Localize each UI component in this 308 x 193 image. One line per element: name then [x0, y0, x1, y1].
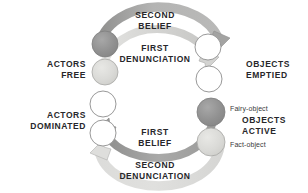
label-actors-dominated: ACTORS DOMINATED: [2, 110, 86, 132]
right-node-2: [196, 66, 222, 92]
label-objects-active: OBJECTS ACTIVE: [242, 115, 298, 137]
label-first-denunciation: FIRST DENUNCIATION: [99, 43, 211, 65]
label-objects-emptied: OBJECTS EMPTIED: [246, 59, 306, 81]
right-node-4: [197, 128, 225, 156]
left-node-3: [90, 91, 116, 117]
label-actors-free: ACTORS FREE: [6, 59, 86, 81]
cycle-diagram: ACTORS FREE ACTORS DOMINATED OBJECTS EMP…: [0, 0, 308, 193]
label-first-belief: FIRST BELIEF: [109, 127, 201, 149]
label-second-belief: SECOND BELIEF: [109, 10, 201, 32]
label-second-denunciation: SECOND DENUNCIATION: [99, 160, 211, 182]
annotation-fact-object: Fact-object: [230, 141, 266, 149]
right-node-3: [197, 98, 225, 126]
annotation-fairy-object: Fairy-object: [230, 105, 268, 113]
